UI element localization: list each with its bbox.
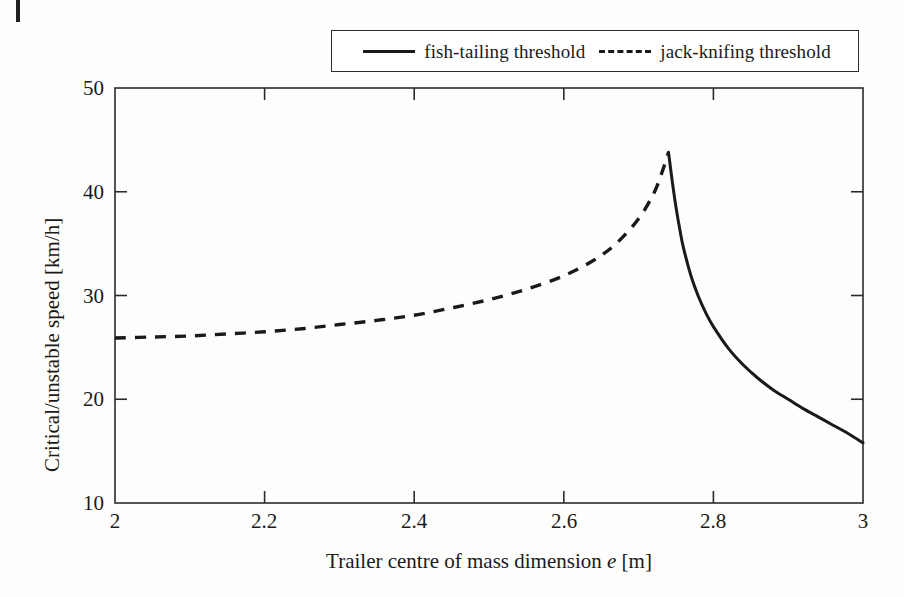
- x-axis-title-suffix: [m]: [616, 549, 652, 573]
- x-tick-marks-top: [265, 88, 714, 100]
- y-tick-label-40: 40: [62, 182, 104, 203]
- x-tick-label-2.6: 2.6: [534, 511, 594, 532]
- plot-area: 50 40 30 20 10 2 2.2 2.4 2.6 2.8 3 Trail…: [0, 0, 904, 597]
- x-tick-label-2.8: 2.8: [683, 511, 743, 532]
- curve-fish-tailing-threshold: [669, 152, 863, 443]
- x-tick-label-2.2: 2.2: [234, 511, 294, 532]
- y-tick-label-20: 20: [62, 389, 104, 410]
- x-tick-label-2: 2: [85, 511, 145, 532]
- y-tick-label-30: 30: [62, 286, 104, 307]
- x-tick-label-3: 3: [833, 511, 893, 532]
- curve-jack-knifing-threshold: [115, 152, 669, 338]
- y-axis-title: Critical/unstable speed [km/h]: [40, 218, 65, 472]
- y-tick-label-50: 50: [62, 78, 104, 99]
- y-tick-marks: [115, 192, 127, 400]
- plot-frame: [115, 88, 863, 503]
- plot-canvas: [0, 0, 904, 597]
- x-axis-title-symbol: e: [607, 549, 616, 573]
- x-axis-title-prefix: Trailer centre of mass dimension: [326, 549, 607, 573]
- x-axis-title: Trailer centre of mass dimension e [m]: [115, 549, 863, 574]
- x-tick-label-2.4: 2.4: [384, 511, 444, 532]
- x-tick-marks: [265, 491, 714, 503]
- figure-page: fish-tailing threshold jack-knifing thre…: [0, 0, 904, 597]
- y-tick-marks-right: [851, 192, 863, 400]
